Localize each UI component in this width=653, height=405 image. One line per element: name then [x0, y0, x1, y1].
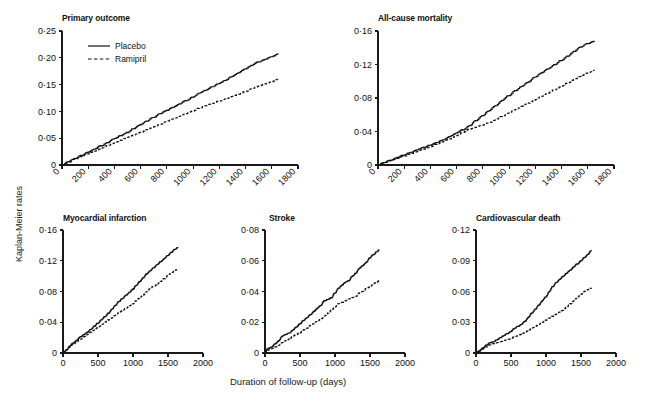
svg-text:0·16: 0·16 — [39, 225, 57, 235]
svg-text:0·09: 0·09 — [452, 256, 470, 266]
svg-text:500: 500 — [90, 358, 105, 368]
svg-text:1500: 1500 — [571, 358, 591, 368]
svg-text:200: 200 — [386, 166, 404, 184]
svg-text:1400: 1400 — [540, 166, 561, 187]
svg-text:1000: 1000 — [171, 166, 192, 187]
svg-text:200: 200 — [70, 166, 88, 184]
svg-text:1200: 1200 — [198, 166, 219, 187]
svg-text:0·03: 0·03 — [452, 317, 470, 327]
svg-text:2000: 2000 — [193, 358, 213, 368]
svg-text:0·08: 0·08 — [354, 93, 372, 103]
svg-text:0: 0 — [367, 166, 378, 177]
svg-text:1200: 1200 — [514, 166, 535, 187]
svg-text:400: 400 — [96, 166, 114, 184]
svg-text:600: 600 — [438, 166, 456, 184]
svg-text:2000: 2000 — [395, 358, 415, 368]
svg-text:1400: 1400 — [224, 166, 245, 187]
svg-text:0·15: 0·15 — [38, 80, 56, 90]
panel-all-cause-mortality: All-cause mortality 00·040·080·120·16020… — [330, 0, 653, 200]
svg-text:1000: 1000 — [123, 358, 143, 368]
svg-text:0·08: 0·08 — [241, 225, 259, 235]
svg-text:1500: 1500 — [158, 358, 178, 368]
svg-text:1000: 1000 — [487, 166, 508, 187]
svg-text:1800: 1800 — [592, 166, 613, 187]
svg-text:0·05: 0·05 — [38, 133, 56, 143]
svg-text:0·02: 0·02 — [241, 317, 259, 327]
svg-text:0: 0 — [465, 348, 470, 358]
svg-text:500: 500 — [503, 358, 518, 368]
svg-text:1000: 1000 — [536, 358, 556, 368]
svg-text:800: 800 — [465, 166, 483, 184]
svg-text:0·04: 0·04 — [39, 317, 57, 327]
panel-stroke: Stroke 00·020·040·060·080500100015002000 — [215, 200, 435, 380]
svg-text:0·04: 0·04 — [354, 127, 372, 137]
svg-text:0: 0 — [262, 358, 267, 368]
panel-myocardial-infarction: Myocardial infarction 00·040·080·120·160… — [0, 200, 220, 380]
svg-text:400: 400 — [412, 166, 430, 184]
svg-text:0·06: 0·06 — [241, 256, 259, 266]
svg-text:0·06: 0·06 — [452, 287, 470, 297]
svg-text:0·08: 0·08 — [39, 287, 57, 297]
svg-text:0·16: 0·16 — [354, 26, 372, 36]
svg-text:0: 0 — [60, 358, 65, 368]
panel-cardiovascular-death: Cardiovascular death 00·030·060·090·1205… — [428, 200, 653, 380]
legend-label-placebo: Placebo — [115, 41, 146, 51]
plot-myocardial-infarction: 00·040·080·120·160500100015002000 — [0, 200, 220, 380]
plot-all-cause-mortality: 00·040·080·120·1602004006008001000120014… — [330, 0, 653, 200]
svg-text:1500: 1500 — [360, 358, 380, 368]
svg-text:0: 0 — [51, 166, 62, 177]
svg-text:0·12: 0·12 — [354, 60, 372, 70]
svg-text:0·04: 0·04 — [241, 287, 259, 297]
plot-stroke: 00·020·040·060·080500100015002000 — [215, 200, 435, 380]
svg-text:0·10: 0·10 — [38, 107, 56, 117]
panel-primary-outcome: Primary outcome 00·050·100·150·200·25020… — [0, 0, 320, 200]
svg-text:600: 600 — [122, 166, 140, 184]
svg-text:1800: 1800 — [276, 166, 297, 187]
svg-text:0·12: 0·12 — [452, 225, 470, 235]
legend-label-ramipril: Ramipril — [115, 54, 146, 64]
svg-text:1000: 1000 — [325, 358, 345, 368]
svg-text:0: 0 — [254, 348, 259, 358]
kaplan-meier-figure: Kaplan-Meier rates Duration of follow-up… — [0, 0, 653, 405]
svg-text:0: 0 — [52, 348, 57, 358]
svg-text:800: 800 — [149, 166, 167, 184]
svg-text:0·20: 0·20 — [38, 53, 56, 63]
plot-cardiovascular-death: 00·030·060·090·120500100015002000 — [428, 200, 653, 380]
svg-text:1600: 1600 — [250, 166, 271, 187]
svg-text:0·25: 0·25 — [38, 26, 56, 36]
svg-text:500: 500 — [292, 358, 307, 368]
svg-text:2000: 2000 — [606, 358, 626, 368]
plot-primary-outcome: 00·050·100·150·200·250200400600800100012… — [0, 0, 320, 200]
svg-text:1600: 1600 — [566, 166, 587, 187]
svg-text:0·12: 0·12 — [39, 256, 57, 266]
svg-text:0: 0 — [473, 358, 478, 368]
